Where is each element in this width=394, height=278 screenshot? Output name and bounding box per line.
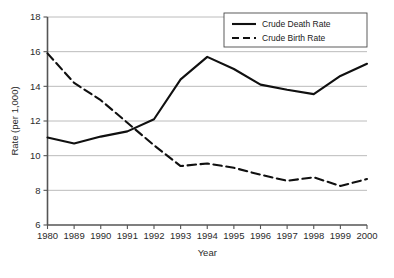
x-tick-label-1993: 1993 [170,230,191,241]
x-tick-label-1998: 1998 [303,230,324,241]
chart-container: 681012141618 198019891990199119921993199… [0,0,394,278]
y-tick-label-6: 6 [35,219,40,230]
x-tick-label-1994: 1994 [197,230,218,241]
legend-label-crude-death-rate: Crude Death Rate [262,19,331,29]
legend-label-crude-birth-rate: Crude Birth Rate [262,33,326,43]
x-tick-label-1980: 1980 [37,230,58,241]
y-tick-label-14: 14 [30,81,41,92]
x-tick-label-1991: 1991 [117,230,138,241]
y-tick-label-8: 8 [35,185,40,196]
y-tick-label-12: 12 [30,115,41,126]
x-tick-label-1997: 1997 [277,230,298,241]
y-tick-label-10: 10 [30,150,41,161]
x-tick-label-1995: 1995 [223,230,244,241]
x-tick-label-1989: 1989 [64,230,85,241]
y-tick-label-18: 18 [30,11,41,22]
x-tick-label-1992: 1992 [143,230,164,241]
x-tick-label-2000: 2000 [356,230,377,241]
line-chart: 681012141618 198019891990199119921993199… [0,0,394,278]
x-tick-label-1996: 1996 [250,230,271,241]
x-tick-label-1999: 1999 [330,230,351,241]
chart-legend: Crude Death RateCrude Birth Rate [224,13,367,47]
x-axis-title: Year [198,247,217,258]
y-axis-title: Rate (per 1,000) [9,86,20,155]
y-tick-label-16: 16 [30,46,41,57]
x-tick-label-1990: 1990 [90,230,111,241]
